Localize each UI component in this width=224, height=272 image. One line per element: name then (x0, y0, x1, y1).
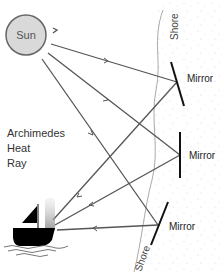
shore-label-top: Shore (169, 13, 180, 40)
title-line-1: Archimedes (7, 127, 66, 139)
sun-label: Sun (16, 29, 36, 41)
mirror-label: Mirror (169, 221, 196, 232)
boat-icon (4, 198, 68, 257)
smoke-icon (45, 198, 55, 232)
archimedes-heat-ray-diagram: Shore Shore Sun Mirror Mirror M (0, 0, 224, 272)
mirror-label: Mirror (189, 150, 216, 161)
mirror-label: Mirror (187, 73, 214, 84)
ray-arrow-icons (88, 58, 108, 135)
title-line-3: Ray (7, 157, 27, 169)
title-line-2: Heat (7, 142, 30, 154)
reflected-arrow-icons (77, 193, 97, 231)
water-waves (4, 246, 68, 257)
sun: Sun (6, 15, 46, 55)
diagram-title: Archimedes Heat Ray (7, 127, 68, 169)
